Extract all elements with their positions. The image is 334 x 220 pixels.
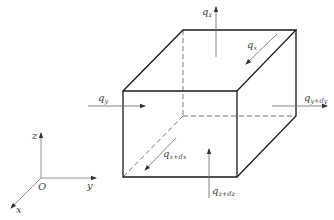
label-qz: qz bbox=[202, 6, 212, 19]
origin-label: O bbox=[38, 181, 46, 192]
x-axis-label: x bbox=[16, 204, 22, 215]
cube-front-face bbox=[123, 91, 237, 177]
label-qydy: qy+dy bbox=[304, 92, 328, 105]
z-axis-label: z bbox=[31, 130, 38, 141]
coordinate-axes bbox=[11, 133, 96, 208]
cube-hidden-edges bbox=[123, 30, 296, 177]
diagram-canvas: qz qx qy qy+dy qx+dx qz+dz z bbox=[0, 0, 334, 220]
heat-flux-diagram: qz qx qy qy+dy qx+dx qz+dz z bbox=[0, 0, 334, 220]
flux-labels: qz qx qy qy+dy qx+dx qz+dz bbox=[98, 6, 328, 198]
label-qxdx: qx+dx bbox=[163, 148, 187, 161]
cube-visible-edges bbox=[123, 30, 296, 177]
hidden-edge-diagonal bbox=[123, 116, 183, 177]
label-qzdz: qz+dz bbox=[212, 185, 235, 198]
y-axis-label: y bbox=[86, 180, 93, 191]
cube-right-face bbox=[237, 30, 296, 177]
label-qy: qy bbox=[98, 92, 108, 105]
label-qx: qx bbox=[247, 39, 257, 52]
axis-labels: z O y x bbox=[16, 130, 93, 215]
cube-top-face bbox=[123, 30, 296, 91]
